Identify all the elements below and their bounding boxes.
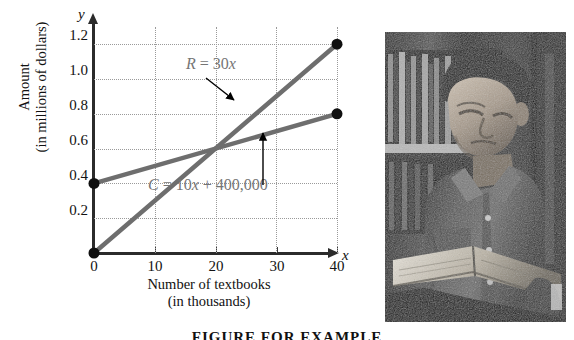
x-tick-label: 0 bbox=[74, 258, 114, 275]
y-axis-title-line2: (in millions of dollars) bbox=[33, 0, 50, 182]
y-tick-label: 0.4 bbox=[54, 168, 88, 183]
y-tick-label: 0.6 bbox=[54, 133, 88, 148]
cost-equation-var: x bbox=[192, 176, 199, 193]
series-point-cost-end bbox=[332, 108, 343, 119]
y-axis-title: Amount (in millions of dollars) bbox=[16, 0, 50, 182]
series-point-cost-start bbox=[89, 178, 100, 189]
figure-caption: FIGURE FOR EXAMPLE bbox=[0, 330, 574, 340]
y-axis-arrowhead bbox=[88, 13, 98, 24]
cost-equation-op: = 10 bbox=[159, 176, 192, 193]
revenue-equation-lhs: R bbox=[186, 55, 196, 72]
y-axis-title-line1: Amount bbox=[16, 0, 33, 182]
series-point-revenue-start bbox=[89, 248, 100, 259]
photo-graphic bbox=[385, 32, 566, 322]
revenue-equation-label: R = 30x bbox=[186, 55, 236, 73]
x-axis-title-line2: (in thousands) bbox=[74, 293, 344, 310]
cost-equation-lhs: C bbox=[148, 176, 159, 193]
man-reading-book-photo bbox=[385, 32, 566, 322]
revenue-equation-var: x bbox=[229, 55, 236, 72]
x-tick-label: 10 bbox=[135, 258, 175, 275]
gridline-vertical bbox=[337, 27, 338, 253]
y-tick-label: 1.0 bbox=[54, 63, 88, 78]
y-tick-label: 1.2 bbox=[54, 28, 88, 43]
shirt-button bbox=[485, 215, 491, 221]
cost-equation-tail: + 400,000 bbox=[199, 176, 268, 193]
series-point-revenue-end bbox=[332, 39, 343, 50]
chart: Amount (in millions of dollars) 1.2 1.0 … bbox=[0, 0, 360, 340]
x-tick-label: 20 bbox=[196, 258, 236, 275]
y-tick-label: 0.8 bbox=[54, 98, 88, 113]
figure-container: Amount (in millions of dollars) 1.2 1.0 … bbox=[0, 0, 574, 340]
x-tick-label: 40 bbox=[317, 258, 357, 275]
series-line-revenue bbox=[94, 44, 337, 253]
y-tick-label: 0.2 bbox=[54, 203, 88, 218]
x-axis-title-line1: Number of textbooks bbox=[74, 276, 344, 293]
bright-highlight bbox=[551, 284, 562, 310]
cost-equation-label: C = 10x + 400,000 bbox=[148, 176, 268, 194]
x-tick-label: 30 bbox=[257, 258, 297, 275]
x-tick-mark bbox=[337, 247, 338, 252]
y-axis-variable-label: y bbox=[78, 6, 85, 23]
x-axis-title: Number of textbooks (in thousands) bbox=[74, 276, 344, 310]
revenue-equation-op: = 30 bbox=[196, 55, 229, 72]
